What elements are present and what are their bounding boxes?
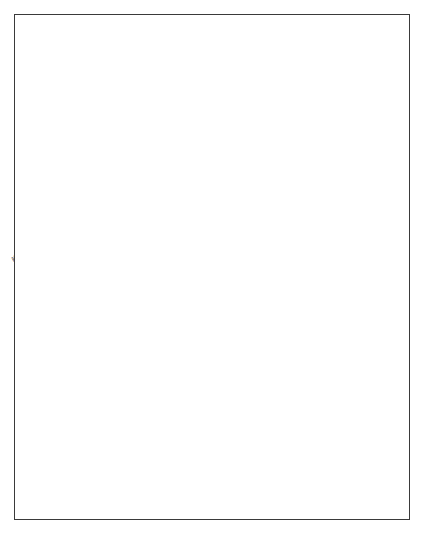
map-page: QUEENSLAND NEW SOUTH WALES VICTORIA TASM… xyxy=(0,0,424,534)
map-frame-border xyxy=(14,14,410,520)
